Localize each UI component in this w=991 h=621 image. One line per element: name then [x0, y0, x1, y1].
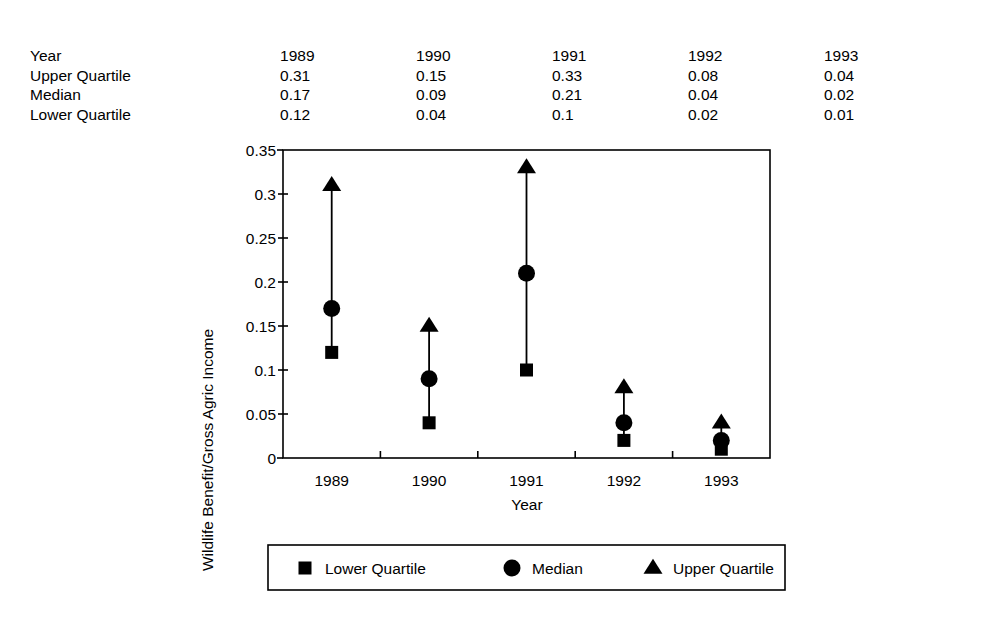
x-tick-label: 1989: [314, 472, 348, 489]
table-row: Upper Quartile 0.31 0.15 0.33 0.08 0.04: [30, 66, 960, 86]
table-cell: 1989: [280, 46, 416, 66]
x-axis-tick-labels: 19891990199119921993: [314, 472, 738, 489]
y-tick-label: 0.1: [254, 362, 276, 379]
data-point-square: [520, 364, 533, 377]
data-series-layer: [322, 158, 731, 455]
x-tick-label: 1992: [607, 472, 641, 489]
table-cell: 0.33: [552, 66, 688, 86]
legend-label: Upper Quartile: [673, 560, 774, 577]
table-body: Year 1989 1990 1991 1992 1993 Upper Quar…: [30, 46, 960, 124]
data-point-square: [617, 434, 630, 447]
table-cell: 0.17: [280, 85, 416, 105]
legend-label: Median: [532, 560, 583, 577]
data-point-triangle: [614, 378, 633, 393]
x-axis-title: Year: [511, 496, 542, 513]
table-cell: 0.15: [416, 66, 552, 86]
row-label: Upper Quartile: [30, 66, 280, 86]
y-tick-label: 0.2: [254, 274, 276, 291]
legend-marker-square: [299, 562, 312, 575]
data-point-circle: [713, 432, 730, 449]
table-cell: 0.31: [280, 66, 416, 86]
x-axis-ticks: [380, 451, 672, 458]
table-row: Median 0.17 0.09 0.21 0.04 0.02: [30, 85, 960, 105]
data-point-triangle: [712, 414, 731, 429]
table-cell: 1992: [688, 46, 824, 66]
y-axis-tick-labels: 00.050.10.150.20.250.30.35: [246, 142, 277, 467]
quartile-range-chart: Wildlife Benefit/Gross Agric Income 00.0…: [0, 140, 991, 610]
y-tick-label: 0.25: [246, 230, 276, 247]
y-tick-label: 0.15: [246, 318, 276, 335]
y-axis-title: Wildlife Benefit/Gross Agric Income: [199, 329, 216, 571]
data-point-square: [325, 346, 338, 359]
table-cell: 0.04: [824, 66, 960, 86]
legend-label: Lower Quartile: [325, 560, 426, 577]
chart-svg: Wildlife Benefit/Gross Agric Income 00.0…: [0, 140, 991, 610]
table-cell: 0.21: [552, 85, 688, 105]
table-cell: 0.01: [824, 105, 960, 125]
data-point-circle: [615, 414, 632, 431]
table-cell: 0.04: [416, 105, 552, 125]
table-cell: 1991: [552, 46, 688, 66]
y-tick-label: 0.05: [246, 406, 276, 423]
y-tick-label: 0.3: [254, 186, 276, 203]
table-cell: 0.09: [416, 85, 552, 105]
data-point-triangle: [322, 176, 341, 191]
table-row: Year 1989 1990 1991 1992 1993: [30, 46, 960, 66]
data-point-circle: [421, 370, 438, 387]
data-point-triangle: [517, 158, 536, 173]
y-tick-label: 0: [267, 450, 276, 467]
quartile-data-table: Year 1989 1990 1991 1992 1993 Upper Quar…: [30, 46, 960, 124]
x-tick-label: 1991: [509, 472, 543, 489]
row-label: Lower Quartile: [30, 105, 280, 125]
x-tick-label: 1993: [704, 472, 738, 489]
legend-marker-triangle: [644, 559, 663, 574]
chart-legend: Lower QuartileMedianUpper Quartile: [268, 545, 785, 590]
data-point-square: [423, 416, 436, 429]
row-label: Median: [30, 85, 280, 105]
row-label: Year: [30, 46, 280, 66]
table-cell: 0.02: [688, 105, 824, 125]
table-cell: 0.04: [688, 85, 824, 105]
table-row: Lower Quartile 0.12 0.04 0.1 0.02 0.01: [30, 105, 960, 125]
table-cell: 1990: [416, 46, 552, 66]
x-tick-label: 1990: [412, 472, 447, 489]
data-point-triangle: [420, 317, 439, 332]
table-cell: 0.08: [688, 66, 824, 86]
table-cell: 1993: [824, 46, 960, 66]
data-point-circle: [323, 300, 340, 317]
legend-marker-circle: [504, 560, 521, 577]
y-tick-label: 0.35: [246, 142, 276, 159]
table-cell: 0.12: [280, 105, 416, 125]
table-cell: 0.02: [824, 85, 960, 105]
data-point-circle: [518, 265, 535, 282]
legend-items: Lower QuartileMedianUpper Quartile: [299, 559, 774, 577]
table-cell: 0.1: [552, 105, 688, 125]
